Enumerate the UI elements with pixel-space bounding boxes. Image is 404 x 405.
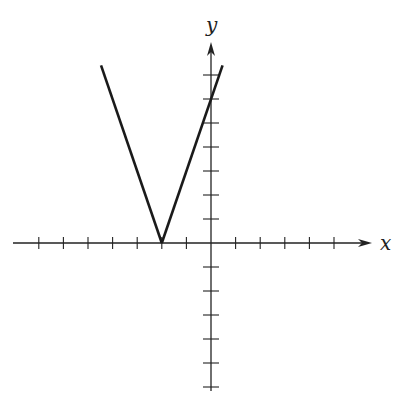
chart-container: x y <box>0 0 404 405</box>
tick-marks <box>39 75 334 387</box>
right-branch-line <box>162 65 223 243</box>
x-axis-label: x <box>380 231 391 255</box>
left-branch-line <box>101 65 162 243</box>
coordinate-plane: x y <box>0 0 404 405</box>
y-axis-label: y <box>205 13 218 37</box>
absolute-value-graph <box>101 65 223 243</box>
axes <box>13 42 372 391</box>
